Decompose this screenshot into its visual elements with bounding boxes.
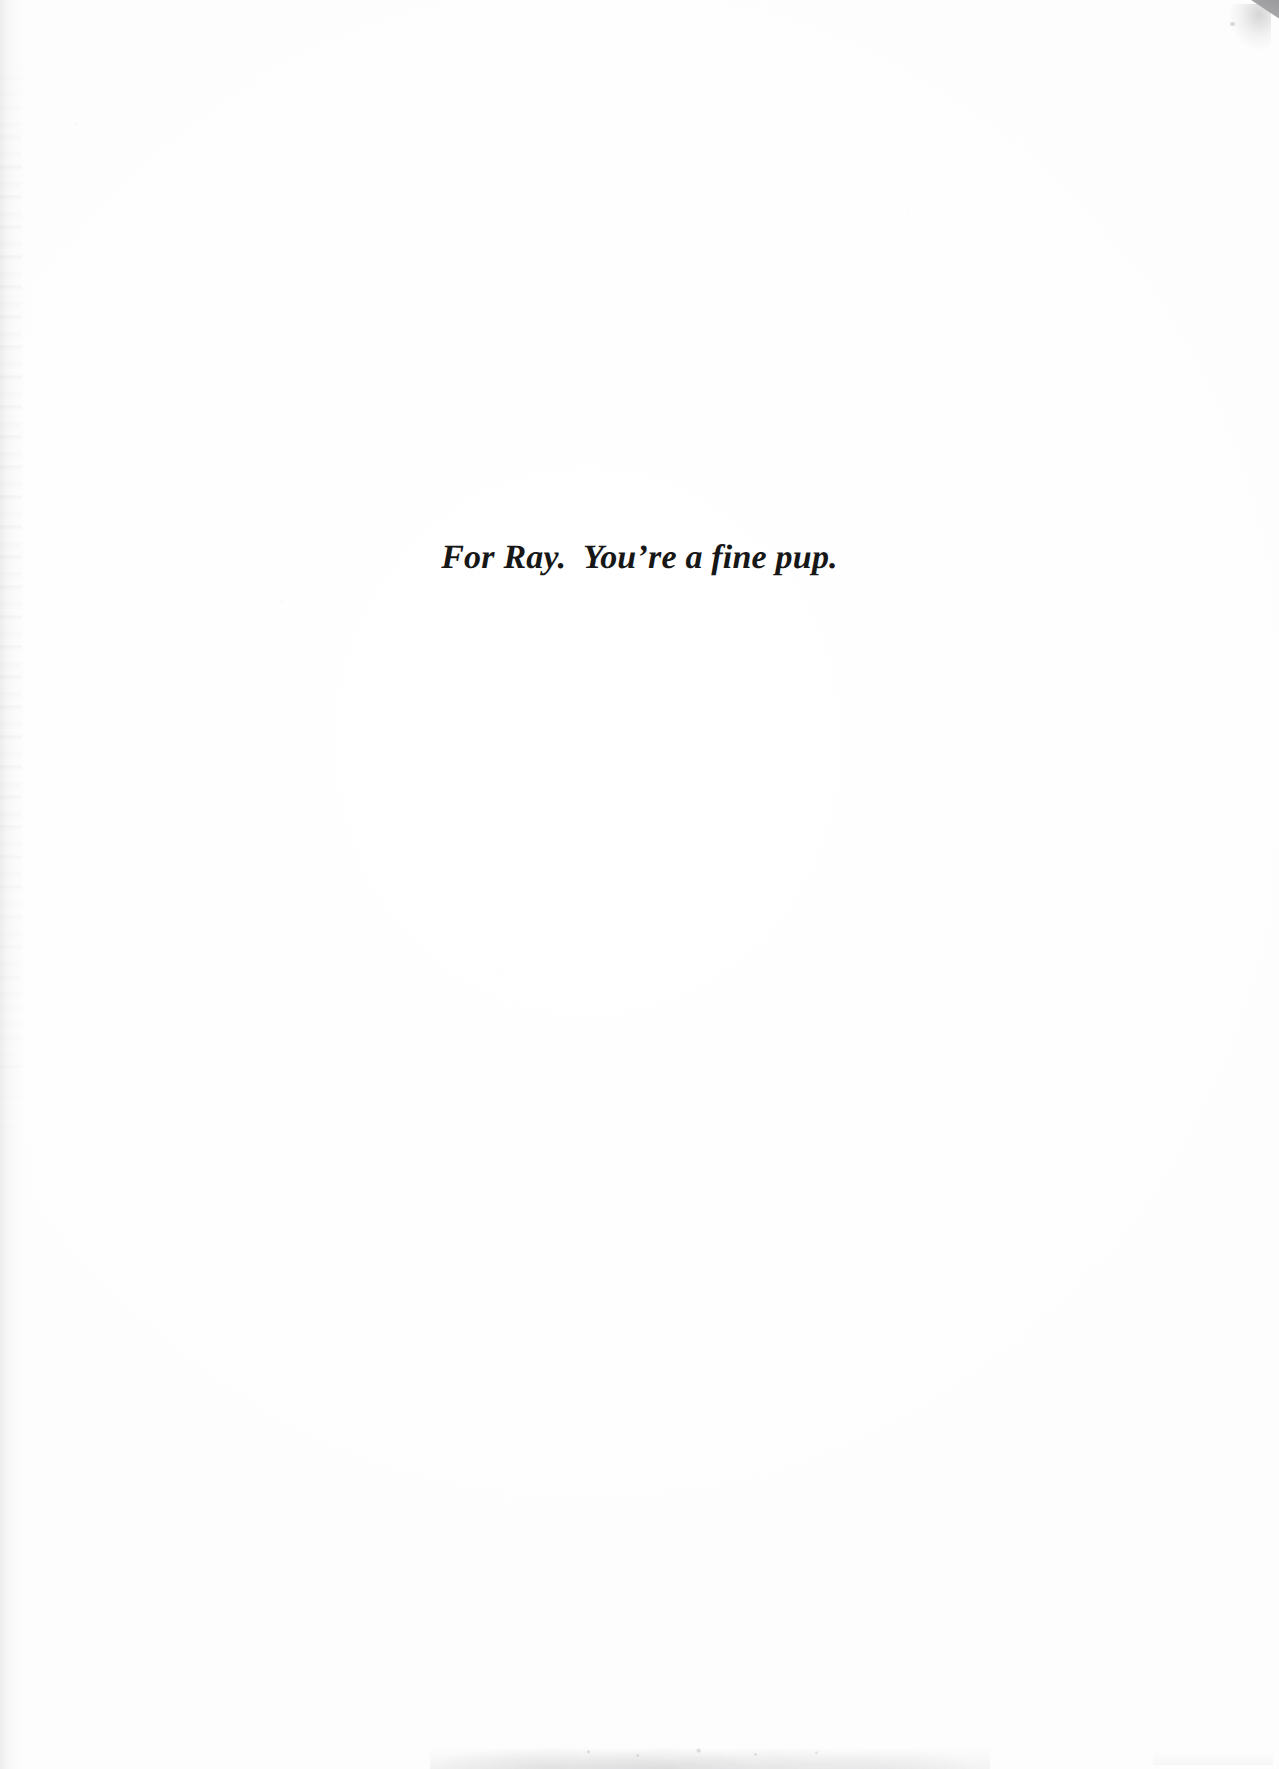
dedication-text: For Ray. You’re a fine pup. — [441, 536, 838, 580]
top-right-corner-shadow-blur — [1229, 4, 1271, 50]
dedication-block: For Ray. You’re a fine pup. — [0, 536, 1279, 580]
top-right-corner-fold-wedge — [1245, 0, 1279, 30]
paper-surface — [0, 0, 1279, 1769]
left-gutter-shadow — [0, 0, 26, 1769]
scanned-page: For Ray. You’re a fine pup. — [0, 0, 1279, 1769]
top-right-corner-speck — [1230, 22, 1235, 26]
bottom-right-edge-tone — [1153, 1751, 1273, 1765]
paper-speckle-texture — [0, 0, 1279, 1769]
bottom-edge-flecks — [520, 1747, 900, 1759]
left-gutter-streaks — [0, 40, 22, 1220]
bottom-edge-smudge — [430, 1743, 990, 1769]
